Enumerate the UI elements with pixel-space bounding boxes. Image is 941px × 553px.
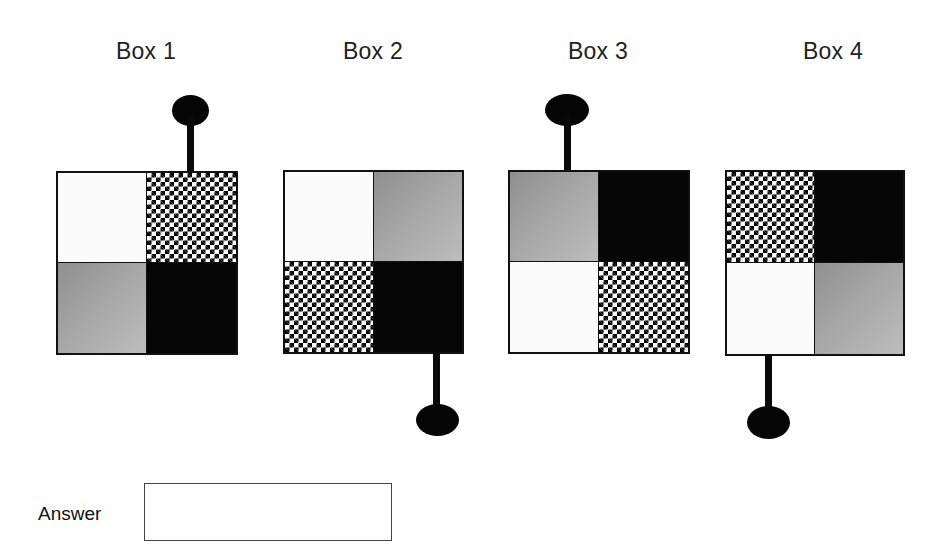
box-1-title: Box 1	[46, 38, 246, 65]
box-3-title: Box 3	[498, 38, 698, 65]
pin-stem	[765, 354, 772, 414]
box-2-quadrant-bottom-right-black	[374, 262, 463, 352]
box-4-quadrant-bottom-left-white	[727, 263, 815, 354]
box-4-title: Box 4	[733, 38, 933, 65]
answer-input[interactable]	[144, 483, 392, 541]
pin-knob-icon	[416, 404, 459, 436]
box-4-quadrant-top-left-checker	[727, 172, 815, 263]
box-3-quadrant-top-left-gray	[510, 172, 599, 262]
box-1-quadrant-top-right-checker	[147, 173, 236, 263]
box-3-quadrant-bottom-right-checker	[599, 262, 688, 352]
answer-label: Answer	[38, 503, 101, 525]
box-1-quadrant-bottom-left-gray	[58, 263, 147, 353]
box-3-quadrant-bottom-left-white	[510, 262, 599, 352]
pin-stem	[187, 118, 194, 173]
box-1-quadrant-top-left-white	[58, 173, 147, 263]
box-4	[725, 170, 905, 356]
box-2-quadrant-bottom-left-checker	[285, 262, 374, 352]
box-2-quadrant-top-right-gray	[374, 172, 463, 262]
box-3-quadrant-top-right-black	[599, 172, 688, 262]
box-4-quadrant-top-right-black	[815, 172, 903, 263]
box-3	[508, 170, 690, 354]
pin-stem	[433, 352, 440, 412]
pin-knob-icon	[747, 406, 790, 439]
box-4-quadrant-bottom-right-gray	[815, 263, 903, 354]
box-1	[56, 171, 238, 355]
pin-stem	[564, 118, 571, 172]
box-2	[283, 170, 464, 354]
box-2-title: Box 2	[273, 38, 473, 65]
box-2-quadrant-top-left-white	[285, 172, 374, 262]
box-1-quadrant-bottom-right-black	[147, 263, 236, 353]
